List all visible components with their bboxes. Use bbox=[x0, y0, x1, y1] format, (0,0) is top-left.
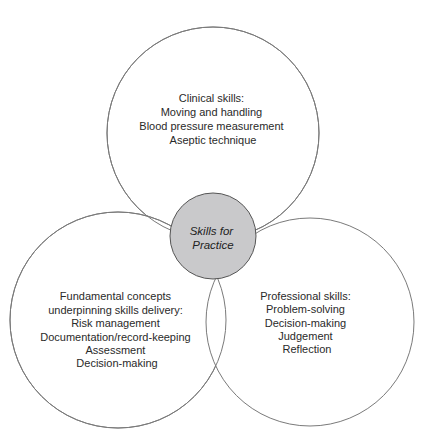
venn-diagram: Clinical skills: Moving and handling Blo… bbox=[0, 0, 433, 446]
